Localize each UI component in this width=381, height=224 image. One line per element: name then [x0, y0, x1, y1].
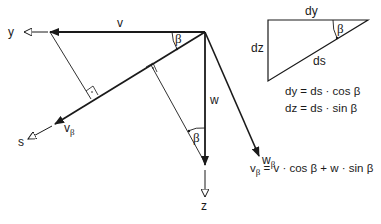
v-beta-vector	[55, 32, 205, 124]
label-v-beta: vβ	[64, 121, 75, 137]
label-beta-top: β	[175, 31, 182, 46]
projection-line-v	[50, 32, 91, 99]
projection-line-w	[151, 65, 205, 163]
label-s: s	[18, 135, 24, 149]
equation-v-beta: vβ = v · cos β + w · sin β	[250, 162, 374, 177]
triangle-label-beta: β	[337, 21, 344, 36]
right-angle-dot-1	[91, 91, 93, 93]
equation-dz: dz = ds · sin β	[285, 102, 358, 114]
s-axis-line	[28, 126, 52, 139]
label-v: v	[117, 16, 123, 30]
differential-triangle: dy dz ds β	[251, 4, 368, 81]
triangle-label-dz: dz	[251, 41, 264, 55]
equation-dy: dy = ds · cos β	[285, 85, 361, 97]
triangle-label-dy: dy	[305, 4, 318, 18]
triangle-label-ds: ds	[313, 54, 326, 68]
label-w: w	[209, 93, 219, 107]
label-beta-lower: β	[193, 130, 200, 145]
label-z: z	[201, 199, 207, 213]
label-y: y	[8, 25, 14, 39]
beta-arc-top-dot	[176, 48, 178, 50]
vector-decomposition-diagram: y v β w β s z vβ wβ dy dz ds β dy = ds ·…	[0, 0, 381, 224]
beta-arc-lower-dot	[188, 130, 190, 132]
right-angle-dot-2	[152, 67, 154, 69]
